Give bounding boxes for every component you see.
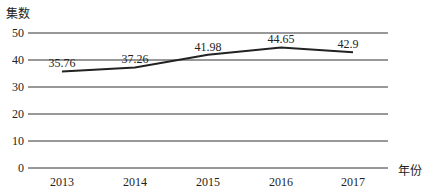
line-chart: 集数 年份 01020304050 20132014201520162017 3… xyxy=(0,0,433,196)
x-tick-label: 2015 xyxy=(196,175,220,189)
data-label: 35.76 xyxy=(49,56,76,70)
x-tick-label: 2017 xyxy=(341,175,365,189)
y-tick-label: 30 xyxy=(12,80,24,94)
data-label: 41.98 xyxy=(195,40,222,54)
data-label: 42.9 xyxy=(338,37,359,51)
x-axis-label: 年份 xyxy=(398,164,422,178)
y-tick-label: 50 xyxy=(12,26,24,40)
x-tick-label: 2014 xyxy=(123,175,147,189)
x-tick-label: 2016 xyxy=(269,175,293,189)
y-axis-label: 集数 xyxy=(6,6,30,21)
y-tick-label: 0 xyxy=(18,161,24,175)
data-labels: 35.7637.2641.9844.6542.9 xyxy=(49,32,359,70)
y-tick-labels: 01020304050 xyxy=(12,26,24,175)
y-tick-label: 10 xyxy=(12,134,24,148)
x-tick-label: 2013 xyxy=(50,175,74,189)
y-tick-label: 40 xyxy=(12,53,24,67)
x-tick-labels: 20132014201520162017 xyxy=(50,175,365,189)
data-label: 37.26 xyxy=(122,52,149,66)
y-tick-label: 20 xyxy=(12,107,24,121)
data-label: 44.65 xyxy=(268,32,295,46)
